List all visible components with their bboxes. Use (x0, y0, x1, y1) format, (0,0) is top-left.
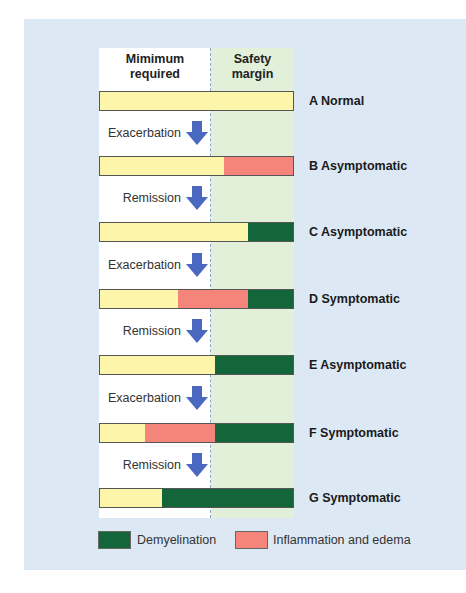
header-line: margin (211, 67, 294, 82)
segment-normal (100, 157, 224, 175)
stage-bar-b (99, 156, 294, 176)
transition-label: Remission (99, 188, 181, 208)
segment-normal (100, 92, 293, 110)
segment-demyelination (215, 356, 293, 374)
segment-inflammation (224, 157, 293, 175)
legend-swatch-inflammation (235, 531, 268, 549)
header-line: required (99, 67, 211, 82)
threshold-divider (210, 48, 211, 518)
header-line: Mimimum (99, 52, 211, 67)
stage-bar-a (99, 91, 294, 111)
minimum-required-column (99, 48, 211, 518)
stage-bar-f (99, 423, 294, 443)
segment-demyelination (162, 489, 293, 507)
down-arrow-icon (186, 121, 208, 145)
down-arrow-icon (186, 453, 208, 477)
segment-demyelination (248, 223, 293, 241)
segment-normal (100, 290, 178, 308)
header-line: Safety (211, 52, 294, 67)
segment-inflammation (145, 424, 215, 442)
transition-label: Remission (99, 321, 181, 341)
header-minimum-required: Mimimum required (99, 52, 211, 82)
stage-bar-d (99, 289, 294, 309)
transition-label: Exacerbation (99, 123, 181, 143)
header-safety-margin: Safety margin (211, 52, 294, 82)
down-arrow-icon (186, 386, 208, 410)
legend-swatch-demyelination (98, 531, 131, 549)
legend-label-inflammation: Inflammation and edema (273, 531, 411, 549)
segment-demyelination (248, 290, 293, 308)
segment-normal (100, 356, 215, 374)
safety-margin-column (211, 48, 294, 518)
segment-normal (100, 424, 145, 442)
segment-demyelination (215, 424, 293, 442)
stage-bar-g (99, 488, 294, 508)
down-arrow-icon (186, 253, 208, 277)
legend-label-demyelination: Demyelination (137, 531, 216, 549)
stage-label-e: E Asymptomatic (309, 355, 406, 375)
stage-label-c: C Asymptomatic (309, 222, 407, 242)
down-arrow-icon (186, 186, 208, 210)
stage-label-d: D Symptomatic (309, 289, 400, 309)
segment-inflammation (178, 290, 248, 308)
transition-label: Exacerbation (99, 255, 181, 275)
stage-bar-e (99, 355, 294, 375)
stage-label-b: B Asymptomatic (309, 156, 407, 176)
transition-label: Remission (99, 455, 181, 475)
segment-normal (100, 489, 162, 507)
transition-label: Exacerbation (99, 388, 181, 408)
segment-normal (100, 223, 248, 241)
stage-label-g: G Symptomatic (309, 488, 401, 508)
stage-label-a: A Normal (309, 91, 364, 111)
stage-bar-c (99, 222, 294, 242)
stage-label-f: F Symptomatic (309, 423, 399, 443)
down-arrow-icon (186, 319, 208, 343)
